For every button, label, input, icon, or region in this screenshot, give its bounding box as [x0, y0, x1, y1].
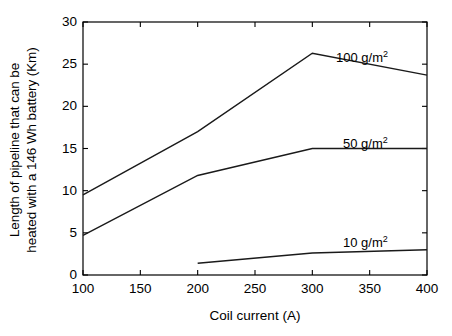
series-label-text: 50 g/m: [343, 136, 383, 151]
series-label-exponent: 2: [383, 135, 388, 145]
data-series-group: [83, 53, 427, 263]
series-label-2: 50 g/m2: [343, 134, 388, 150]
series-line-3: [198, 250, 427, 263]
series-label-3: 10 g/m2: [343, 233, 388, 249]
chart-figure: Length of pipeline that can be heated wi…: [0, 0, 452, 336]
series-label-text: 100 g/m: [336, 50, 383, 65]
series-label-exponent: 2: [383, 234, 388, 244]
series-label-exponent: 2: [383, 49, 388, 59]
series-label-text: 10 g/m: [343, 235, 383, 250]
series-label-1: 100 g/m2: [336, 48, 388, 64]
series-line-1: [83, 53, 427, 195]
series-line-2: [83, 149, 427, 236]
